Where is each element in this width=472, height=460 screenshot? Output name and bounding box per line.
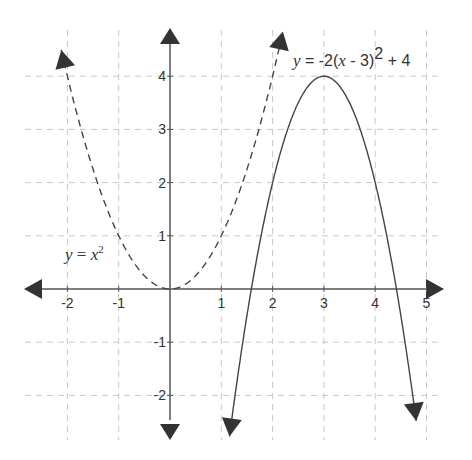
y-tick-label: 4 <box>158 68 166 84</box>
curve-downward-parabola <box>230 76 417 436</box>
y-tick-label: 2 <box>158 175 166 191</box>
x-tick-label: 5 <box>423 295 431 311</box>
curves <box>56 32 424 437</box>
x-tick-label: 3 <box>320 295 328 311</box>
grid-lines <box>25 30 440 440</box>
y-tick-label: -1 <box>154 334 167 350</box>
x-tick-label: 2 <box>269 295 277 311</box>
label-y-equals-x-squared: y = x2 <box>63 243 104 264</box>
y-axis-up-arrow-icon <box>160 28 180 44</box>
x-tick-label: 4 <box>371 295 379 311</box>
y-tick-label: 3 <box>158 121 166 137</box>
y-tick-label: 1 <box>158 228 166 244</box>
x-tick-label: 1 <box>217 295 225 311</box>
y-tick-label: -2 <box>154 387 167 403</box>
x-tick-label: -1 <box>112 295 125 311</box>
y-axis-down-arrow-icon <box>160 424 180 440</box>
parabola2-start-arrow-icon <box>222 417 242 436</box>
x-tick-label: -2 <box>61 295 74 311</box>
parabola1-start-arrow-icon <box>56 50 75 70</box>
x-axis-left-arrow-icon <box>24 279 42 299</box>
parabola2-end-arrow-icon <box>404 402 424 421</box>
label-downward-parabola: y = -2(x - 3)2 + 4 <box>291 45 410 70</box>
axes <box>24 28 444 440</box>
coordinate-plane: -2-1123454321-1-2 y = x2 y = -2(x - 3)2 … <box>0 0 472 460</box>
